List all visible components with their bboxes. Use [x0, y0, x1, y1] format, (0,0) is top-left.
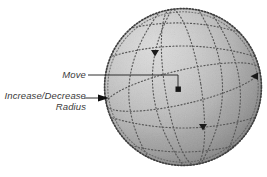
figure-canvas: Move Increase/Decrease Radius [0, 0, 267, 177]
callout-radius-line2: Radius [56, 101, 86, 112]
move-handle-center[interactable] [176, 87, 181, 92]
callout-radius-line1: Increase/Decrease [5, 90, 86, 101]
sphere-body[interactable] [100, 4, 267, 174]
callout-label-radius: Increase/Decrease Radius [0, 90, 86, 112]
callout-label-move: Move [0, 69, 86, 80]
sphere-texture [100, 4, 267, 174]
sphere-diagram [0, 0, 267, 177]
